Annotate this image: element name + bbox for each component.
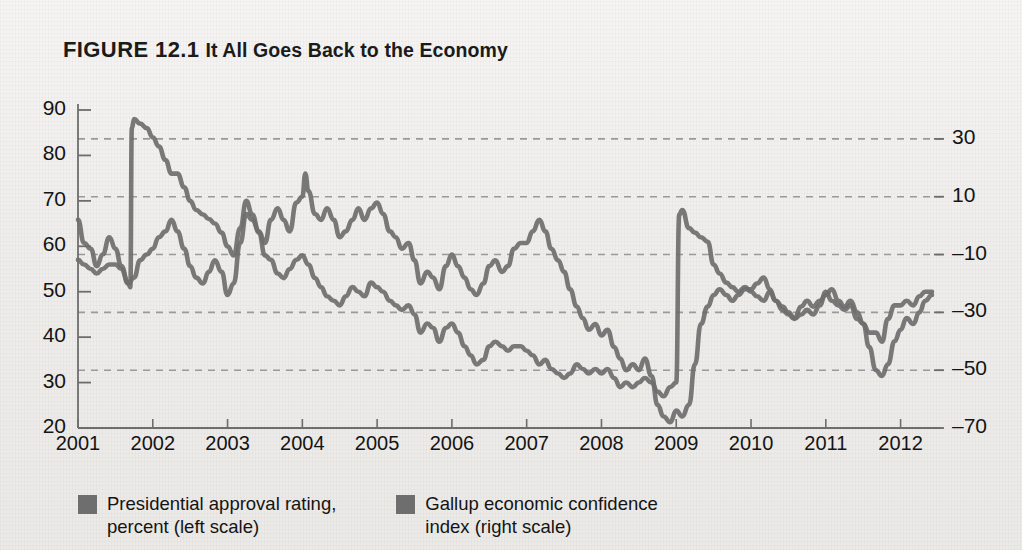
x-axis-label: 2001 [48, 432, 108, 455]
x-axis-label: 2006 [422, 432, 482, 455]
y2-axis-label: –70 [952, 414, 1000, 438]
y2-axis-label: 10 [952, 183, 1000, 207]
y-axis-label: 60 [20, 232, 66, 256]
y-axis-label: 30 [20, 369, 66, 393]
y-axis-label: 50 [20, 278, 66, 302]
x-axis-label: 2009 [646, 432, 706, 455]
legend-item[interactable]: Presidential approval rating, percent (l… [78, 492, 336, 538]
y2-axis-label: 30 [952, 125, 1000, 149]
chart-legend: Presidential approval rating, percent (l… [78, 492, 658, 538]
x-axis-label: 2011 [796, 432, 856, 455]
y-axis-label: 90 [20, 96, 66, 120]
figure-container: FIGURE 12.1 It All Goes Back to the Econ… [0, 0, 1022, 550]
series-line-gallup [78, 174, 932, 423]
y2-axis-label: –10 [952, 241, 1000, 265]
y2-axis-label: –30 [952, 298, 1000, 322]
x-axis-label: 2012 [871, 432, 931, 455]
chart-svg [0, 0, 1022, 470]
x-axis-label: 2007 [497, 432, 557, 455]
x-axis-label: 2005 [347, 432, 407, 455]
y2-axis-label: –50 [952, 356, 1000, 380]
chart-plot-area: 2030405060708090–70–50–30–10103020012002… [0, 0, 1022, 470]
series-line-approval [78, 119, 932, 396]
legend-swatch-icon [396, 495, 415, 514]
x-axis-label: 2008 [571, 432, 631, 455]
y-axis-label: 40 [20, 323, 66, 347]
legend-label: Presidential approval rating, percent (l… [107, 492, 336, 538]
legend-swatch-icon [78, 495, 97, 514]
x-axis-label: 2002 [123, 432, 183, 455]
legend-label: Gallup economic confidence index (right … [425, 492, 657, 538]
legend-item[interactable]: Gallup economic confidence index (right … [396, 492, 657, 538]
x-axis-label: 2010 [721, 432, 781, 455]
y-axis-label: 80 [20, 141, 66, 165]
x-axis-label: 2004 [272, 432, 332, 455]
y-axis-label: 70 [20, 187, 66, 211]
x-axis-label: 2003 [198, 432, 258, 455]
